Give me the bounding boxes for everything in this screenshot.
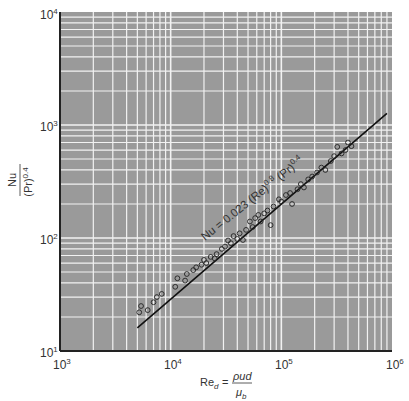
y-tick-label: 104 [40, 7, 58, 22]
x-tick-label: 104 [164, 357, 182, 372]
plot-area [60, 12, 392, 351]
svg-text:=: = [222, 376, 228, 388]
y-tick-label: 102 [40, 232, 58, 247]
svg-text:μb: μb [235, 386, 247, 401]
y-axis-label: Nu (Pr)0.4 [6, 164, 34, 197]
chart: 104 103 102 101 103 104 105 106 Nu (Pr)0… [0, 0, 409, 401]
x-tick-label: 103 [53, 357, 71, 372]
y-tick-label: 103 [40, 119, 58, 134]
x-axis-label: Red = ρud μb [200, 370, 252, 401]
svg-text:Nu: Nu [6, 173, 18, 187]
svg-text:Red: Red [200, 376, 219, 391]
svg-text:ρud: ρud [232, 370, 252, 382]
svg-text:(Pr)0.4: (Pr)0.4 [21, 167, 34, 197]
x-tick-label: 105 [275, 357, 293, 372]
x-tick-label: 106 [386, 357, 404, 372]
